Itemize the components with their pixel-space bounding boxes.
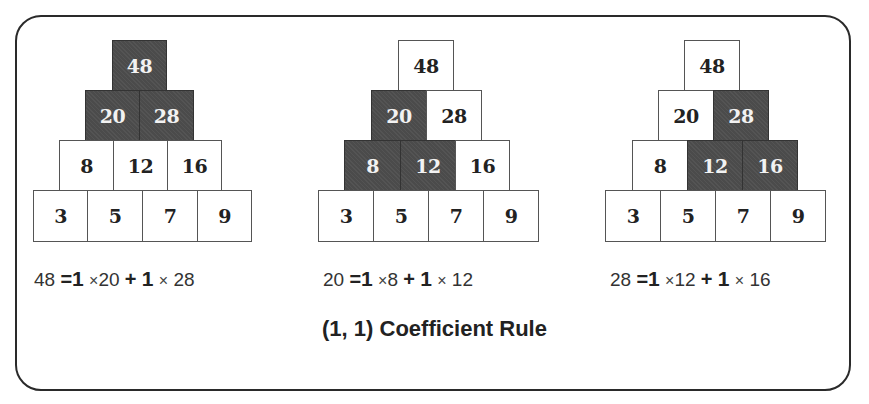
pyramid-3-cell-r3-c1: 5 <box>660 190 716 242</box>
pyramid-1-cell-r1-c0: 20 <box>85 90 140 141</box>
coefficient-1: 1 <box>72 267 84 290</box>
equation-3-term-b: 16 <box>749 269 770 290</box>
equation-1: 48 =1 ×20 + 1 × 28 <box>34 264 195 294</box>
pyramid-1-cell-r2-c0: 8 <box>59 140 114 191</box>
plus-sign: + <box>403 268 415 290</box>
equation-2-term-a: 8 <box>387 269 398 290</box>
pyramid-3-cell-r2-c0: 8 <box>632 140 688 191</box>
pyramid-1-cell-r3-c1: 5 <box>87 190 143 242</box>
pyramid-3-cell-r3-c3: 9 <box>770 190 826 242</box>
pyramid-3-cell-r0-c0: 48 <box>684 40 740 91</box>
pyramid-3-cell-r3-c0: 3 <box>605 190 661 242</box>
pyramid-1-cell-r0-c0: 48 <box>112 40 167 91</box>
pyramid-3-cell-r1-c0: 20 <box>658 90 714 141</box>
pyramid-2-cell-r1-c1: 28 <box>426 90 482 141</box>
equation-1-term-a: 20 <box>98 269 119 290</box>
pyramid-1-cell-r2-c2: 16 <box>167 140 222 191</box>
pyramid-2-cell-r2-c0: 8 <box>344 140 401 191</box>
plus-sign: + <box>125 268 137 290</box>
pyramid-1-cell-r3-c3: 9 <box>197 190 252 242</box>
pyramid-1-cell-r3-c0: 3 <box>33 190 88 242</box>
pyramid-2-cell-r2-c2: 16 <box>455 140 510 191</box>
equals-sign: = <box>60 268 72 290</box>
pyramid-3-cell-r3-c2: 7 <box>715 190 771 242</box>
equation-3: 28 =1 ×12 + 1 × 16 <box>610 264 771 294</box>
pyramid-1-cell-r3-c2: 7 <box>142 190 198 242</box>
diagram-title: (1, 1) Coefficient Rule <box>0 316 869 342</box>
pyramid-3-cell-r2-c1: 12 <box>687 140 743 191</box>
pyramid-1-cell-r2-c1: 12 <box>113 140 168 191</box>
pyramid-2-cell-r3-c1: 5 <box>373 190 429 242</box>
equation-2: 20 =1 ×8 + 1 × 12 <box>323 264 473 294</box>
pyramid-2-cell-r0-c0: 48 <box>398 40 454 91</box>
coefficient-1: 1 <box>361 267 373 290</box>
pyramid-2-cell-r2-c1: 12 <box>400 140 456 191</box>
pyramid-2-cell-r3-c3: 9 <box>483 190 539 242</box>
coefficient-2: 1 <box>718 267 730 290</box>
pyramid-2-cell-r1-c0: 20 <box>371 90 427 141</box>
times-sign: × <box>437 272 446 289</box>
equation-3-term-a: 12 <box>674 269 695 290</box>
equation-2-lhs: 20 <box>323 269 344 290</box>
pyramid-3-cell-r1-c1: 28 <box>713 90 769 141</box>
pyramid-2-cell-r3-c2: 7 <box>428 190 484 242</box>
equals-sign: = <box>349 268 361 290</box>
equals-sign: = <box>636 268 648 290</box>
pyramid-3-cell-r2-c2: 16 <box>742 140 798 191</box>
equation-2-term-b: 12 <box>452 269 473 290</box>
times-sign: × <box>159 272 168 289</box>
times-sign: × <box>735 272 744 289</box>
coefficient-2: 1 <box>420 267 432 290</box>
pyramid-1-cell-r1-c1: 28 <box>139 90 194 141</box>
equation-1-lhs: 48 <box>34 269 55 290</box>
coefficient-1: 1 <box>648 267 660 290</box>
pyramid-2-cell-r3-c0: 3 <box>318 190 374 242</box>
equation-3-lhs: 28 <box>610 269 631 290</box>
equation-1-term-b: 28 <box>173 269 194 290</box>
coefficient-2: 1 <box>142 267 154 290</box>
plus-sign: + <box>701 268 713 290</box>
